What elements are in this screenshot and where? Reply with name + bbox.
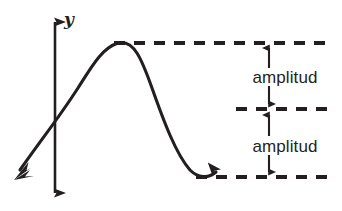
figure-canvas: y amplitud amplitud xyxy=(0,0,342,211)
vertical-axis: y xyxy=(55,9,75,193)
sine-wave-curve xyxy=(14,43,216,180)
y-axis-label: y xyxy=(63,9,75,29)
wave-amplitude-figure: y amplitud amplitud xyxy=(0,0,342,211)
dashed-reference-lines xyxy=(114,43,334,177)
upper-amplitude-label: amplitud xyxy=(252,68,317,87)
lower-amplitude-label: amplitud xyxy=(252,137,317,156)
sine-wave-path xyxy=(20,43,216,177)
